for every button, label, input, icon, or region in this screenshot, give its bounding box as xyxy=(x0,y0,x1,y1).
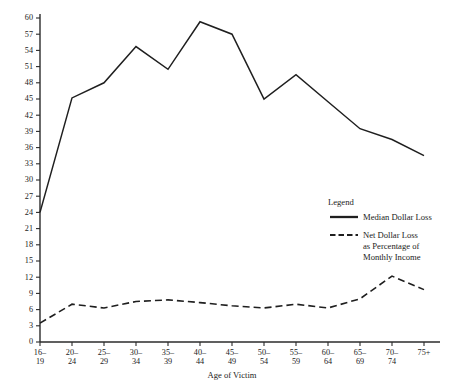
x-axis-tick-label-second-line: 24 xyxy=(68,357,76,366)
y-axis-tick-label: 3 xyxy=(29,321,33,330)
y-axis-tick-label: 36 xyxy=(25,143,33,152)
y-axis-tick-label: 57 xyxy=(25,30,33,39)
y-axis-tick-label: 18 xyxy=(25,240,33,249)
x-axis-tick-label: 65– xyxy=(354,348,367,357)
y-axis-tick-label: 12 xyxy=(25,273,33,282)
y-axis-tick-label: 42 xyxy=(25,111,33,120)
x-axis-tick-label: 60– xyxy=(322,348,335,357)
line-chart: 03691215182124273033363942454851545760 1… xyxy=(0,0,453,391)
legend-label-2: Monthly Income xyxy=(363,252,421,262)
x-axis-tick-label-second-line: 39 xyxy=(164,357,172,366)
series-line-1 xyxy=(40,22,424,213)
y-axis-tick-label: 21 xyxy=(25,224,33,233)
x-axis-tick-label: 35– xyxy=(162,348,175,357)
y-axis-tick-label: 39 xyxy=(25,127,33,136)
y-axis-tick-label: 6 xyxy=(29,305,33,314)
x-axis-tick-label-second-line: 74 xyxy=(388,357,396,366)
legend-label-2: Net Dollar Loss xyxy=(363,230,419,240)
legend-label-2: as Percentage of xyxy=(363,241,419,251)
chart-canvas: 03691215182124273033363942454851545760 1… xyxy=(0,0,453,391)
x-axis-tick-label-second-line: 49 xyxy=(228,357,236,366)
series-line-2 xyxy=(40,276,424,323)
x-axis-tick-label-second-line: 64 xyxy=(324,357,332,366)
y-axis-tick-label: 15 xyxy=(25,256,33,265)
x-axis-tick-label: 45– xyxy=(226,348,239,357)
y-axis-tick-label: 51 xyxy=(25,62,33,71)
x-axis-tick-label-second-line: 29 xyxy=(100,357,108,366)
x-axis-tick-label-second-line: 19 xyxy=(36,357,44,366)
y-axis-tick-label: 0 xyxy=(29,337,33,346)
y-axis-tick-label: 45 xyxy=(25,94,33,103)
x-axis-tick-label: 70– xyxy=(386,348,399,357)
chart-legend: LegendMedian Dollar LossNet Dollar Lossa… xyxy=(328,197,432,262)
x-axis-tick-label: 50– xyxy=(258,348,271,357)
y-axis-tick-label: 33 xyxy=(25,159,33,168)
y-axis-tick-label: 30 xyxy=(25,175,33,184)
y-axis-tick-label: 27 xyxy=(25,192,33,201)
x-axis-tick-label: 75+ xyxy=(418,348,431,357)
x-axis-title: Age of Victim xyxy=(208,370,257,380)
y-axis-tick-label: 54 xyxy=(25,46,33,55)
x-axis: 16–1920–2425–2930–3435–3940–4445–4950–54… xyxy=(34,342,440,366)
x-axis-tick-label-second-line: 34 xyxy=(132,357,140,366)
x-axis-tick-label: 55– xyxy=(290,348,303,357)
x-axis-tick-label-second-line: 54 xyxy=(260,357,268,366)
x-axis-tick-label: 40– xyxy=(194,348,207,357)
y-axis: 03691215182124273033363942454851545760 xyxy=(25,13,40,346)
legend-label-1: Median Dollar Loss xyxy=(363,212,432,222)
y-axis-tick-label: 48 xyxy=(25,78,33,87)
x-axis-tick-label: 30– xyxy=(130,348,143,357)
x-axis-tick-label-second-line: 59 xyxy=(292,357,300,366)
x-axis-tick-label-second-line: 69 xyxy=(356,357,364,366)
y-axis-tick-label: 60 xyxy=(25,13,33,22)
x-axis-tick-label: 16– xyxy=(34,348,47,357)
y-axis-tick-label: 9 xyxy=(29,289,33,298)
data-series-group xyxy=(40,22,424,323)
x-axis-tick-label-second-line: 44 xyxy=(196,357,204,366)
legend-title: Legend xyxy=(328,197,354,207)
x-axis-tick-label: 20– xyxy=(66,348,79,357)
x-axis-tick-label: 25– xyxy=(98,348,111,357)
y-axis-tick-label: 24 xyxy=(25,208,33,217)
